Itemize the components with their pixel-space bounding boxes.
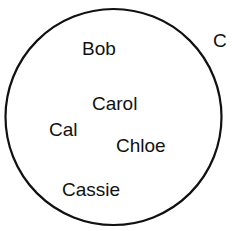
member-label: Cal	[49, 120, 78, 139]
venn-diagram: C Bob Carol Cal Chloe Cassie	[0, 0, 232, 231]
member-label: Chloe	[116, 136, 166, 155]
member-label: Bob	[82, 39, 116, 58]
member-label: Carol	[92, 94, 137, 113]
set-label: C	[213, 31, 227, 50]
member-label: Cassie	[62, 180, 120, 199]
